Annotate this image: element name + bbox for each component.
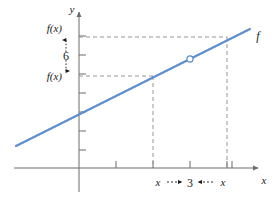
open-point-marker (187, 56, 193, 62)
run-label: 3 (187, 176, 193, 190)
linear-function-graph: 6 f(x) f(x) 3 x x y x f (0, 0, 278, 202)
x-axis-ticks (116, 161, 232, 168)
axes-group (14, 12, 258, 192)
y-axis-label: y (69, 3, 75, 15)
x-axis-label: x (261, 174, 267, 186)
curve-label-f: f (256, 29, 261, 43)
lower-fx-label: f(x) (47, 70, 63, 83)
function-line-f (16, 29, 250, 146)
run-measure-group: 3 (167, 176, 213, 190)
axis-name-labels-group: y x f (69, 3, 267, 186)
rise-measure-group: 6 (63, 40, 69, 71)
figure-root: 6 f(x) f(x) 3 x x y x f (0, 0, 278, 202)
right-x-label: x (220, 176, 226, 188)
upper-fx-label: f(x) (47, 22, 63, 35)
rise-label: 6 (63, 49, 69, 63)
left-x-label: x (155, 176, 161, 188)
y-axis-ticks (79, 36, 86, 150)
y-value-labels-group: f(x) f(x) (47, 22, 63, 83)
function-curve-group (16, 29, 250, 146)
